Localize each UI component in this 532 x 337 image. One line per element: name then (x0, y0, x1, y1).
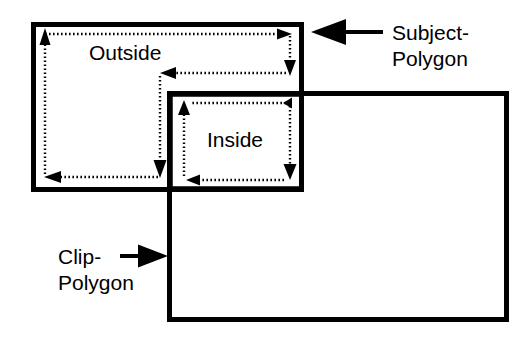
subject-polygon-label-line2: Polygon (392, 47, 468, 70)
inside-arrow-up-left (178, 100, 190, 115)
inside-arrow-down-right (284, 164, 297, 180)
inside-arrow-left-top (283, 98, 292, 109)
clip-polygon-callout: Clip- Polygon (58, 245, 168, 295)
clip-polygon-label-line2: Polygon (58, 271, 134, 294)
subject-callout-arrowhead-icon (311, 19, 346, 45)
inside-label: Inside (207, 128, 263, 151)
outside-arrow-right-top (277, 29, 292, 40)
subject-polygon-callout: Subject- Polygon (311, 19, 469, 70)
clip-polygon-label-line1: Clip- (58, 245, 101, 268)
outside-arrow-left-mid (160, 67, 176, 79)
outside-arrow-up-left (40, 28, 51, 45)
outside-arrow-left-bottom (44, 171, 61, 183)
inside-arrow-left-bottom (186, 175, 200, 186)
outside-arrow-down-inner (154, 160, 167, 178)
polygon-clipping-diagram: Outside Inside Subject- Polygon Clip- Po… (0, 0, 532, 337)
clip-callout-arrowhead-icon (138, 245, 168, 268)
diagram-canvas: Outside Inside Subject- Polygon Clip- Po… (0, 0, 532, 337)
subject-polygon-label-line1: Subject- (392, 21, 469, 44)
outside-label: Outside (89, 41, 161, 64)
